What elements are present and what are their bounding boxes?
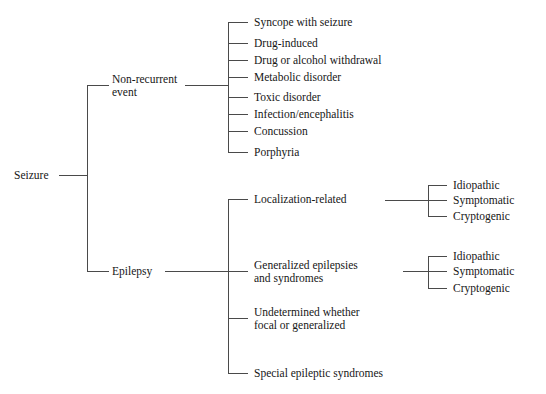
connector-tick-porphyria [228,152,248,153]
node-idiopathic-generalized: Idiopathic [453,250,500,263]
node-metabolic-disorder: Metabolic disorder [254,71,341,84]
node-drug-or-alcohol-withdrawal: Drug or alcohol withdrawal [254,54,381,67]
node-toxic-disorder: Toxic disorder [254,91,321,104]
connector-tick-idiopathic-localization [428,185,447,186]
connector-branch-nonrecurrent-stem [87,85,109,86]
node-epilepsy: Epilepsy [112,265,152,278]
connector-tick-concussion [228,131,248,132]
node-idiopathic-localization: Idiopathic [453,179,500,192]
node-non-recurrent-event: Non-recurrentevent [112,73,177,98]
connector-tick-idiopathic-generalized [428,256,447,257]
seizure-classification-diagram: Seizure Non-recurrentevent Syncope with … [0,0,546,394]
node-porphyria: Porphyria [254,146,299,159]
node-drug-induced: Drug-induced [254,37,318,50]
connector-tick-generalized-epilepsies [228,271,248,272]
node-symptomatic-generalized: Symptomatic [453,265,514,278]
connector-tick-toxic-disorder [228,97,248,98]
connector-generalized-to-subtypes [403,271,428,272]
node-undetermined-line1: Undetermined whether [254,306,360,318]
node-generalized-line2: and syndromes [254,272,323,284]
connector-tick-cryptogenic-generalized [428,288,447,289]
node-syncope-with-seizure: Syncope with seizure [254,16,352,29]
node-infection-encephalitis: Infection/encephalitis [254,108,354,121]
node-cryptogenic-generalized: Cryptogenic [453,282,510,295]
node-non-recurrent-event-line1: Non-recurrent [112,73,177,85]
node-symptomatic-localization: Symptomatic [453,194,514,207]
node-special-epileptic-syndromes: Special epileptic syndromes [254,367,383,380]
connector-root-trunk [87,85,88,271]
node-seizure: Seizure [14,169,48,182]
node-generalized-epilepsies-and-syndromes: Generalized epilepsiesand syndromes [254,259,358,284]
node-non-recurrent-event-line2: event [112,86,137,98]
connector-tick-drug-induced [228,43,248,44]
connector-tick-syncope [228,22,248,23]
connector-tick-special-epileptic-syndromes [228,373,248,374]
node-generalized-line1: Generalized epilepsies [254,259,358,271]
connector-tick-drug-alcohol-withdrawal [228,60,248,61]
node-cryptogenic-localization: Cryptogenic [453,210,510,223]
node-concussion: Concussion [254,125,308,138]
connector-epilepsy-bar [228,199,229,373]
node-undetermined-line2: focal or generalized [254,319,345,331]
connector-tick-undetermined [228,318,248,319]
connector-root-stem [59,175,87,176]
connector-nonrecurrent-bar [228,22,229,152]
connector-tick-symptomatic-localization [428,200,447,201]
connector-tick-metabolic-disorder [228,77,248,78]
node-undetermined-whether-focal-or-generalized: Undetermined whetherfocal or generalized [254,306,360,331]
connector-epilepsy-to-bar [165,271,228,272]
connector-subtypes-bar-generalized [428,256,429,288]
connector-branch-epilepsy-stem [87,271,109,272]
connector-localization-to-subtypes [385,200,428,201]
connector-nonrecurrent-to-bar [185,85,228,86]
connector-tick-infection-encephalitis [228,114,248,115]
connector-tick-symptomatic-generalized [428,271,447,272]
connector-tick-cryptogenic-localization [428,216,447,217]
node-localization-related: Localization-related [254,193,347,206]
connector-tick-localization-related [228,199,248,200]
